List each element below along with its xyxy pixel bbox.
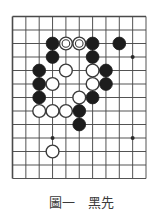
stone-body[interactable] [46,37,59,50]
stone-body[interactable] [33,91,46,104]
stone-black[interactable] [73,105,86,118]
stone-white[interactable] [86,64,99,77]
stone-black[interactable] [33,64,46,77]
star-point [131,55,135,59]
stone-body[interactable] [73,105,86,118]
go-problem-figure: 圖一 黑先 [0,0,163,220]
stone-body[interactable] [73,91,86,104]
stone-black[interactable] [46,37,59,50]
stone-body[interactable] [86,51,99,64]
stone-body[interactable] [46,105,59,118]
stone-black[interactable] [33,91,46,104]
stone-black[interactable] [46,51,59,64]
stone-black[interactable] [86,91,99,104]
stone-body[interactable] [33,105,46,118]
stone-white[interactable] [46,78,59,91]
stone-body[interactable] [86,91,99,104]
go-board-canvas[interactable] [0,0,163,185]
stone-body[interactable] [100,64,113,77]
stone-body[interactable] [60,105,73,118]
stone-body[interactable] [100,78,113,91]
stone-black[interactable] [113,37,126,50]
star-point [131,136,135,140]
stone-white[interactable] [46,105,59,118]
stone-white[interactable] [60,64,73,77]
go-board[interactable] [0,0,163,185]
stone-body[interactable] [73,118,86,131]
stone-body[interactable] [86,78,99,91]
caption-label: 圖一 [49,192,76,211]
stone-black[interactable] [86,37,99,50]
star-point [51,136,55,140]
stone-white[interactable] [73,91,86,104]
stone-black[interactable] [33,78,46,91]
stone-body[interactable] [60,64,73,77]
stone-white[interactable] [46,145,59,158]
stone-body[interactable] [46,145,59,158]
stone-body[interactable] [86,37,99,50]
stone-white[interactable] [60,105,73,118]
stone-body[interactable] [46,51,59,64]
stone-body[interactable] [86,64,99,77]
stone-body[interactable] [46,78,59,91]
stone-white-marked[interactable] [60,37,73,50]
figure-caption: 圖一 黑先 [0,186,163,216]
stone-black[interactable] [73,118,86,131]
caption-prompt: 黑先 [88,192,115,211]
stone-black[interactable] [86,51,99,64]
stone-black[interactable] [100,78,113,91]
stone-body[interactable] [33,78,46,91]
stone-white[interactable] [86,78,99,91]
stone-body[interactable] [73,37,86,50]
stone-body[interactable] [60,37,73,50]
stone-body[interactable] [113,37,126,50]
stone-black[interactable] [100,64,113,77]
stone-white[interactable] [33,105,46,118]
stone-body[interactable] [33,64,46,77]
stone-white-marked[interactable] [73,37,86,50]
